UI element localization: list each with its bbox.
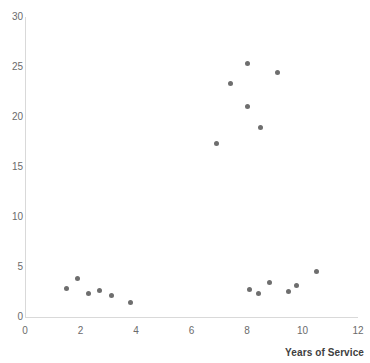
scatter-point — [245, 104, 250, 109]
scatter-point — [97, 288, 102, 293]
scatter-point — [314, 269, 319, 274]
scatter-point — [258, 125, 263, 130]
scatter-point — [294, 283, 299, 288]
x-tick-label: 0 — [10, 326, 40, 336]
x-tick-label: 4 — [121, 326, 151, 336]
scatter-chart: 051015202530 024681012 Years of Service — [0, 0, 370, 363]
scatter-point — [275, 70, 280, 75]
scatter-point — [75, 276, 80, 281]
x-tick-label: 12 — [343, 326, 370, 336]
x-tick-label: 8 — [232, 326, 262, 336]
scatter-point — [245, 61, 250, 66]
scatter-point — [86, 291, 91, 296]
x-tick-label: 2 — [66, 326, 96, 336]
scatter-point — [128, 300, 133, 305]
scatter-point — [228, 81, 233, 86]
plot-area — [25, 17, 358, 317]
x-tick-label: 10 — [288, 326, 318, 336]
scatter-point — [267, 280, 272, 285]
x-tick-label: 6 — [177, 326, 207, 336]
scatter-point — [64, 286, 69, 291]
scatter-point — [247, 287, 252, 292]
scatter-point — [256, 291, 261, 296]
scatter-point — [109, 293, 114, 298]
scatter-point — [286, 289, 291, 294]
scatter-point — [214, 141, 219, 146]
x-axis-title: Years of Service — [285, 347, 364, 358]
